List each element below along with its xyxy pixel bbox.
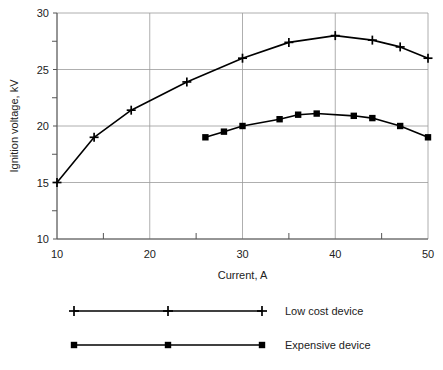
legend-entry-1: Low cost device [69,305,363,317]
x-axis-tick-label: 10 [51,248,63,260]
legend-square-icon [71,342,77,348]
data-point-plus-icon [396,42,405,51]
y-axis-tick-label: 25 [37,64,49,76]
legend-plus-icon [69,306,79,316]
data-point-plus-icon [182,77,191,86]
data-point-square-icon [397,123,403,129]
data-point-plus-icon [238,54,247,63]
data-point-square-icon [369,115,375,121]
legend-plus-icon [163,306,173,316]
data-point-plus-icon [331,31,340,40]
series-2 [202,110,431,140]
y-axis-title: Ignition voltage, kV [8,79,20,173]
y-axis-tick-label: 20 [37,120,49,132]
data-point-plus-icon [424,54,433,63]
y-axis-tick-label: 10 [37,233,49,245]
data-point-square-icon [276,116,282,122]
data-point-square-icon [314,110,320,116]
data-point-square-icon [239,123,245,129]
line-chart: 10152025301020304050Current, AIgnition v… [0,0,443,370]
chart-container: 10152025301020304050Current, AIgnition v… [0,0,443,370]
x-axis-tick-label: 40 [329,248,341,260]
data-point-plus-icon [368,36,377,45]
legend-square-icon [259,342,265,348]
data-point-square-icon [221,128,227,134]
legend-label-2: Expensive device [285,339,371,351]
data-point-square-icon [425,134,431,140]
x-axis-tick-label: 30 [236,248,248,260]
x-axis-tick-label: 50 [422,248,434,260]
x-axis-tick-label: 20 [144,248,156,260]
x-axis-title: Current, A [218,269,268,281]
legend-label-1: Low cost device [285,305,363,317]
data-point-plus-icon [284,38,293,47]
legend-entry-2: Expensive device [71,339,371,351]
data-point-square-icon [351,113,357,119]
y-axis-tick-label: 15 [37,177,49,189]
legend-plus-icon [257,306,267,316]
data-point-square-icon [202,134,208,140]
y-axis-tick-label: 30 [37,7,49,19]
legend-square-icon [165,342,171,348]
data-point-square-icon [295,112,301,118]
series-line-2 [205,114,428,138]
